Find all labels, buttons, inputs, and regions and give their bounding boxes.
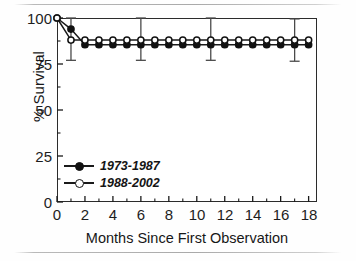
xtick-label-18: 18 (296, 206, 322, 223)
survival-figure: 100 75 50 25 0 0 2 4 6 8 10 12 14 16 18 … (0, 0, 356, 261)
legend-item-1973-1987: 1973-1987 (64, 157, 176, 174)
xtick-label-2: 2 (72, 206, 98, 223)
x-axis-title: Months Since First Observation (57, 230, 317, 246)
legend-label-2: 1988-2002 (94, 176, 160, 190)
xtick-label-8: 8 (156, 206, 182, 223)
legend-label-1: 1973-1987 (94, 159, 160, 173)
y-axis-title: % Survival (30, 17, 47, 157)
xtick-label-0: 0 (44, 206, 70, 223)
page-rule-bottom (14, 252, 342, 253)
page-rule-top (14, 4, 342, 5)
xtick-label-14: 14 (240, 206, 266, 223)
xtick-label-16: 16 (268, 206, 294, 223)
xtick-label-10: 10 (184, 206, 210, 223)
xtick-label-4: 4 (100, 206, 126, 223)
xtick-label-12: 12 (212, 206, 238, 223)
open-circle-icon (64, 177, 94, 189)
legend: 1973-1987 1988-2002 (64, 157, 176, 191)
filled-circle-icon (64, 160, 94, 172)
legend-item-1988-2002: 1988-2002 (64, 174, 176, 191)
xtick-label-6: 6 (128, 206, 154, 223)
